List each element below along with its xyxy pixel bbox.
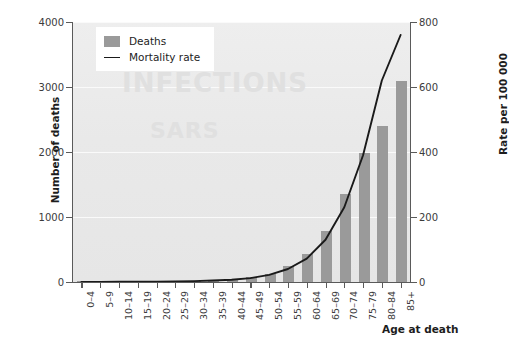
y-axis-left-tick-label: 1000 <box>0 212 68 223</box>
x-axis-tick-label: 55–59 <box>292 291 303 320</box>
x-axis-tick-label: 40–44 <box>236 291 247 320</box>
x-axis-tick <box>157 283 158 288</box>
y-axis-right-tick <box>411 152 417 153</box>
x-axis-tick <box>138 283 139 288</box>
x-axis-tick <box>382 283 383 288</box>
x-axis-tick-label: 10–14 <box>123 291 134 320</box>
x-axis-line <box>72 282 411 283</box>
x-axis-tick-label: 85+ <box>405 291 416 311</box>
x-axis-tick-label: 35–39 <box>217 291 228 320</box>
x-axis-tick <box>175 283 176 288</box>
y-axis-left-tick-label: 4000 <box>0 17 68 28</box>
x-axis-tick <box>213 283 214 288</box>
y-axis-right-tick-label: 200 <box>419 212 438 223</box>
legend-line-swatch-icon <box>104 57 120 58</box>
x-axis-tick-label: 50–54 <box>273 291 284 320</box>
x-axis-tick <box>288 283 289 288</box>
mortality-rate-path <box>81 35 400 282</box>
x-axis-tick <box>194 283 195 288</box>
x-axis-tick <box>119 283 120 288</box>
x-axis-tick <box>250 283 251 288</box>
legend-label-deaths: Deaths <box>129 35 166 47</box>
x-axis-tick-label: 25–29 <box>179 291 190 320</box>
y-axis-right-tick <box>411 87 417 88</box>
x-axis-tick-label: 45–49 <box>254 291 265 320</box>
x-axis-tick <box>81 283 82 288</box>
legend-bar-swatch-icon <box>104 36 120 47</box>
x-axis-tick-label: 70–74 <box>348 291 359 320</box>
legend-item-deaths: Deaths <box>104 33 200 49</box>
y-axis-right-tick-label: 400 <box>419 147 438 158</box>
x-axis-tick <box>363 283 364 288</box>
legend-label-mortality-rate: Mortality rate <box>129 51 200 63</box>
x-axis-tick <box>100 283 101 288</box>
x-axis-tick <box>344 283 345 288</box>
x-axis-tick <box>401 283 402 288</box>
x-axis-tick-label: 15–19 <box>142 291 153 320</box>
y-axis-right-tick-label: 0 <box>419 277 425 288</box>
x-axis-tick <box>307 283 308 288</box>
x-axis-tick-label: 60–64 <box>311 291 322 320</box>
x-axis-tick-label: 20–24 <box>161 291 172 320</box>
y-axis-right-tick <box>411 22 417 23</box>
x-axis-tick-label: 65–69 <box>330 291 341 320</box>
x-axis-tick <box>326 283 327 288</box>
chart-legend: Deaths Mortality rate <box>96 27 214 71</box>
x-axis-tick <box>232 283 233 288</box>
y-axis-left-tick-label: 0 <box>0 277 68 288</box>
y-axis-right-tick <box>411 217 417 218</box>
y-axis-right-tick-label: 800 <box>419 17 438 28</box>
legend-item-mortality-rate: Mortality rate <box>104 49 200 65</box>
x-axis-title: Age at death <box>382 323 458 335</box>
x-axis-tick-label: 5–9 <box>104 291 115 308</box>
y-axis-left-tick-label: 3000 <box>0 82 68 93</box>
x-axis-tick-label: 0–4 <box>85 291 96 308</box>
y-axis-right-title: Rate per 100 000 <box>497 53 509 155</box>
x-axis-tick-label: 30–34 <box>198 291 209 320</box>
y-axis-right-tick <box>411 282 417 283</box>
x-axis-tick-label: 80–84 <box>386 291 397 320</box>
x-axis-tick <box>269 283 270 288</box>
x-axis-tick-label: 75–79 <box>367 291 378 320</box>
y-axis-left-title: Number of deaths <box>49 97 61 204</box>
y-axis-left-line <box>72 22 73 283</box>
y-axis-right-tick-label: 600 <box>419 82 438 93</box>
